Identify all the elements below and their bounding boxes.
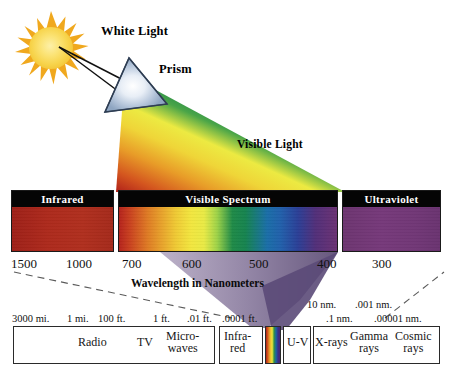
electromagnetic-scale: RadioTVMicro- wavesInfra- redU-VX-raysGa… — [0, 326, 452, 364]
em-segment-x-rays: X-rays — [315, 336, 348, 348]
em-measure-label: 1 ft. — [153, 313, 170, 324]
prism-label: Prism — [159, 62, 192, 77]
wavelength-tick-500: 500 — [249, 256, 269, 272]
em-segment-infrared: Infra- red — [224, 330, 251, 354]
spectrum-panels-row: Infrared Visible Spectrum Ultraviolet — [0, 190, 452, 252]
em-segment-radio: Radio — [78, 336, 107, 348]
em-box-visible — [265, 326, 281, 364]
wavelength-tick-400: 400 — [317, 256, 337, 272]
em-measure-label: 3000 mi. — [12, 313, 49, 324]
em-measure-label: .01 ft. — [187, 313, 212, 324]
em-measure-label: 10 nm. — [307, 299, 336, 310]
wavelength-tick-1000: 1000 — [66, 256, 92, 272]
em-segment-gamma-rays: Gamma rays — [350, 330, 388, 354]
em-segment-tv: TV — [137, 336, 153, 348]
spectrum-panel-infrared-header: Infrared — [12, 191, 113, 207]
spectrum-panel-infrared: Infrared — [11, 190, 114, 252]
spectrum-panel-ultraviolet-header: Ultraviolet — [343, 191, 440, 207]
em-measure-label: .0001 ft. — [222, 313, 257, 324]
texture-overlay — [119, 207, 337, 251]
visible-spectrum-band — [119, 207, 337, 251]
em-segment-microwaves: Micro- waves — [166, 330, 199, 354]
em-measure-label: .001 nm. — [355, 299, 392, 310]
spectrum-panel-ultraviolet: Ultraviolet — [342, 190, 441, 252]
white-light-label: White Light — [101, 24, 168, 39]
wavelength-tick-1500: 1500 — [11, 256, 37, 272]
em-measure-label: .00001 nm. — [374, 313, 422, 324]
wavelength-tick-300: 300 — [372, 256, 392, 272]
ultraviolet-band — [343, 207, 440, 251]
texture-overlay — [343, 207, 440, 251]
light-spectrum-diagram: White Light Prism Visible Light Infrared… — [0, 0, 452, 379]
wavelength-axis: 15001000700600500400300 — [0, 256, 452, 274]
visible-light-label: Visible Light — [237, 138, 303, 150]
em-segment-ultraviolet: U-V — [287, 336, 308, 348]
spectrum-panel-visible: Visible Spectrum — [118, 190, 338, 252]
wavelength-tick-700: 700 — [122, 256, 142, 272]
em-segment-cosmic-rays: Cosmic rays — [395, 330, 432, 354]
wavelength-tick-600: 600 — [182, 256, 202, 272]
wavelength-axis-caption: Wavelength in Nanometers — [131, 277, 264, 289]
spectrum-panel-visible-header: Visible Spectrum — [119, 191, 337, 207]
em-measure-label: 1 mi. — [67, 313, 89, 324]
texture-overlay — [12, 207, 113, 251]
em-measure-label: 100 ft. — [98, 313, 125, 324]
em-measure-label: .1 nm. — [326, 313, 353, 324]
infrared-band — [12, 207, 113, 251]
